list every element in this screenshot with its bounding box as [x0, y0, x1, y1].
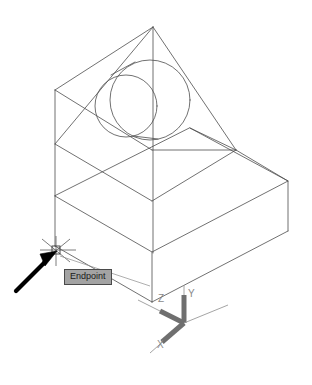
mouse-arrow-pointer	[16, 251, 57, 291]
wireframe-drawing: Y Z X	[0, 0, 312, 385]
wedge-upper-slant-left	[55, 90, 152, 150]
wedge-inclined-left-edge	[55, 27, 153, 144]
ucs-label-y: Y	[188, 288, 195, 299]
wedge-mid-slant-right	[152, 150, 236, 201]
wedge-inclined-right-edge	[236, 150, 288, 181]
ucs-label-z: Z	[158, 293, 164, 304]
lower-box-top-face	[55, 128, 288, 252]
osnap-endpoint-tooltip: Endpoint	[64, 269, 112, 285]
cad-viewport[interactable]: Y Z X Endpoint	[0, 0, 312, 385]
model-wireframe	[55, 27, 288, 302]
wedge-mid-slant-left	[55, 144, 152, 201]
ucs-axis-x-arm	[162, 323, 184, 342]
ucs-axis-icon: Y Z X	[138, 285, 228, 353]
wedge-front-lower-edge	[190, 128, 236, 150]
wedge-back-top-ridge	[55, 27, 153, 90]
ucs-axis-right-tick	[184, 305, 228, 323]
ucs-label-x: X	[157, 339, 164, 350]
wedge-apex-right-edge	[153, 27, 236, 150]
arrow-shaft	[16, 262, 45, 291]
ucs-axis-z-arm	[160, 311, 184, 323]
cylinder-silhouette-top	[111, 62, 135, 75]
cylinder-far-circle	[110, 60, 190, 140]
cylinder-near-circle	[95, 75, 157, 137]
